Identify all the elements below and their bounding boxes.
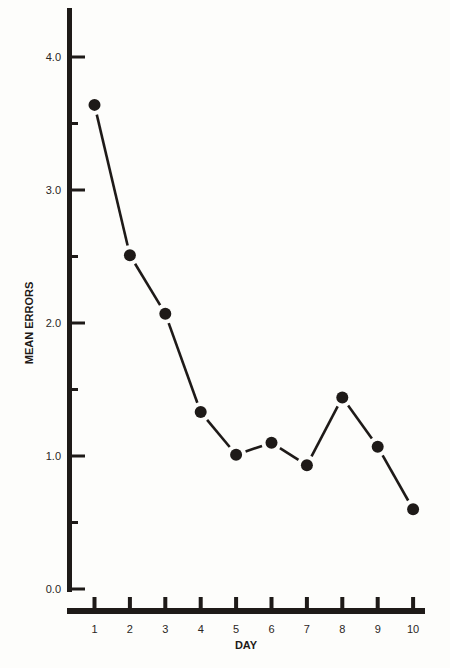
x-tick bbox=[234, 597, 238, 609]
line-segment bbox=[312, 406, 338, 456]
y-minor-tick bbox=[72, 122, 78, 125]
x-tick-label: 3 bbox=[162, 623, 168, 635]
y-major-tick bbox=[72, 588, 85, 591]
y-major-tick bbox=[72, 455, 85, 458]
data-point-marker bbox=[230, 449, 242, 461]
x-tick-label: 8 bbox=[339, 623, 345, 635]
y-tick-label: 2.0 bbox=[46, 317, 61, 329]
x-axis bbox=[67, 608, 425, 614]
line-chart: 0.01.02.03.04.0 12345678910 DAY MEAN ERR… bbox=[0, 0, 450, 668]
data-point-marker bbox=[195, 406, 207, 418]
x-tick bbox=[93, 597, 97, 609]
y-major-tick bbox=[72, 322, 85, 325]
data-point-marker bbox=[407, 503, 419, 515]
y-minor-tick bbox=[72, 388, 78, 391]
x-tick bbox=[128, 597, 132, 609]
x-tick-label: 5 bbox=[233, 623, 239, 635]
y-axis-line bbox=[67, 8, 72, 592]
y-tick-label: 4.0 bbox=[46, 51, 61, 63]
x-ticks: 12345678910 bbox=[91, 597, 419, 635]
y-tick-label: 1.0 bbox=[46, 450, 61, 462]
line-segment bbox=[97, 115, 128, 246]
y-minor-tick bbox=[72, 255, 78, 258]
data-point-marker bbox=[336, 391, 348, 403]
x-axis-line bbox=[67, 608, 425, 614]
data-point-marker bbox=[266, 437, 278, 449]
data-point-marker bbox=[89, 99, 101, 111]
y-ticks: 0.01.02.03.04.0 bbox=[46, 51, 85, 595]
y-major-tick bbox=[72, 56, 85, 59]
line-segment bbox=[135, 264, 160, 305]
line-segment bbox=[207, 420, 230, 447]
line-segment bbox=[348, 406, 372, 439]
line-segment bbox=[246, 446, 262, 452]
x-tick bbox=[163, 597, 167, 609]
x-tick bbox=[270, 597, 274, 609]
x-tick-label: 7 bbox=[304, 623, 310, 635]
line-segment bbox=[169, 323, 198, 403]
x-tick bbox=[199, 597, 203, 609]
y-tick-label: 0.0 bbox=[46, 583, 61, 595]
data-point-marker bbox=[159, 308, 171, 320]
x-tick-label: 6 bbox=[268, 623, 274, 635]
line-segment bbox=[383, 455, 409, 500]
data-point-marker bbox=[372, 441, 384, 453]
y-axis-title: MEAN ERRORS bbox=[23, 282, 35, 365]
x-tick bbox=[305, 597, 309, 609]
x-tick-label: 1 bbox=[91, 623, 97, 635]
data-point-marker bbox=[301, 459, 313, 471]
data-series bbox=[89, 99, 420, 515]
x-tick-label: 2 bbox=[127, 623, 133, 635]
x-tick-label: 4 bbox=[198, 623, 204, 635]
x-tick bbox=[411, 597, 415, 609]
y-major-tick bbox=[72, 189, 85, 192]
y-tick-label: 3.0 bbox=[46, 184, 61, 196]
y-axis bbox=[67, 8, 72, 592]
x-tick-label: 9 bbox=[375, 623, 381, 635]
x-tick bbox=[340, 597, 344, 609]
data-point-marker bbox=[124, 249, 136, 261]
x-tick-label: 10 bbox=[407, 623, 419, 635]
x-tick bbox=[376, 597, 380, 609]
y-minor-tick bbox=[72, 521, 78, 524]
line-segment bbox=[280, 448, 299, 460]
x-axis-title: DAY bbox=[235, 639, 258, 651]
